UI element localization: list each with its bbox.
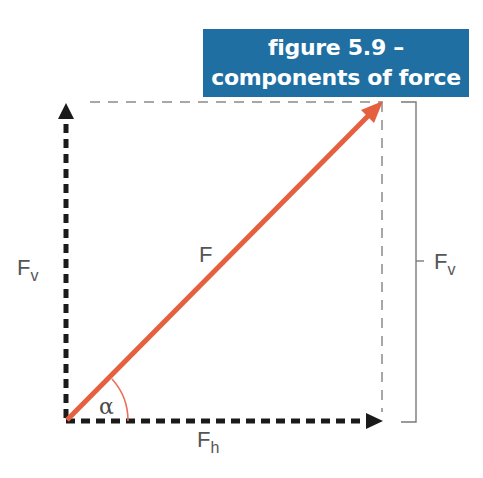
label-angle-alpha: α: [99, 394, 114, 419]
arrowhead-right-icon: [366, 413, 383, 429]
label-resultant-force: F: [199, 242, 212, 267]
figure-title-line-2: components of force: [203, 63, 469, 93]
figure-title-line-1: figure 5.9 –: [203, 33, 469, 63]
label-vertical-right: Fv: [434, 249, 455, 278]
arrowhead-up-icon: [58, 103, 74, 119]
resultant-force-arrow: [67, 101, 383, 420]
angle-arc: [112, 379, 128, 421]
label-horizontal: Fh: [197, 427, 219, 456]
label-vertical-left: Fv: [17, 255, 38, 284]
vertical-component-bracket: [401, 102, 424, 422]
figure-title-box: figure 5.9 – components of force: [203, 29, 469, 97]
vertical-component-arrow: [58, 103, 74, 418]
